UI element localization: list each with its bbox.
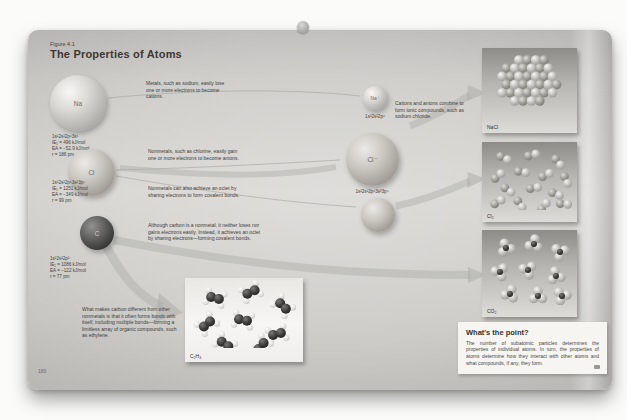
chlorine-covalent-sphere <box>361 198 395 232</box>
c2h4-photo-panel: C₂H₄ <box>185 278 303 362</box>
note-nonmetals-share: Nonmetals can also achieve an octet by s… <box>148 185 240 198</box>
sodium-symbol: Na <box>74 100 82 107</box>
co2-molecules-illustration <box>482 230 577 305</box>
whats-the-point-title: What's the point? <box>466 328 599 337</box>
page-number-left: 180 <box>38 368 46 374</box>
sodium-atom-sphere: Na <box>50 75 106 131</box>
note-carbon: Although carbon is a nonmetal, it neithe… <box>148 222 264 242</box>
cl2-label: Cl₂ <box>487 213 494 219</box>
note-carbon-self: What makes carbon different from other n… <box>82 306 182 339</box>
cl2-photo-panel: Cl₂ <box>482 142 577 222</box>
chloride-ion-symbol: Cl⁻ <box>367 156 377 164</box>
sodium-ion-config: 1s²2s²2p⁶ <box>345 114 405 119</box>
nacl-crystal-illustration <box>482 48 577 120</box>
note-metals: Metals, such as sodium, easily lose one … <box>146 80 234 100</box>
carbon-radius: r = 77 pm <box>50 274 86 280</box>
textbook-spread-screenshot: Figure 4.1 The Properties of Atoms Na 1s… <box>0 0 627 420</box>
binder-hole <box>297 21 309 33</box>
c2h4-label: C₂H₄ <box>190 353 201 359</box>
co2-photo-panel: CO₂ <box>482 230 577 317</box>
cl2-molecules-illustration <box>482 142 577 210</box>
co2-label: CO₂ <box>487 308 496 314</box>
book-spread: Figure 4.1 The Properties of Atoms Na 1s… <box>28 30 612 390</box>
figure-title: The Properties of Atoms <box>50 48 182 60</box>
carbon-atom-sphere: C <box>80 216 114 250</box>
carbon-data: 1s²2s²2p² IE₁ = 1086 kJ/mol EA = −122 kJ… <box>50 256 86 280</box>
chloride-ion-sphere: Cl⁻ <box>346 133 399 186</box>
carbon-symbol: C <box>95 230 100 237</box>
figure-number: Figure 4.1 <box>50 41 75 47</box>
c2h4-molecules-illustration <box>185 278 303 348</box>
chlorine-data: 1s²2s²2p⁶3s²3p⁵ IE₁ = 1251 kJ/mol EA = −… <box>52 180 88 204</box>
whats-the-point-body: The number of subatomic particles determ… <box>466 340 599 367</box>
sodium-ion-symbol: Na⁺ <box>370 96 379 101</box>
nacl-photo-panel: NaCl <box>482 48 577 133</box>
note-cations: Cations and anions combine to form ionic… <box>395 100 467 120</box>
chlorine-radius: r = 99 pm <box>52 198 88 204</box>
note-nonmetals-gain: Nonmetals, such as chlorine, easily gain… <box>148 148 240 161</box>
chloride-ion-config: 1s²2s²2p⁶3s²3p⁶ <box>342 189 402 194</box>
whats-the-point-box: What's the point? The number of subatomi… <box>458 322 607 374</box>
chlorine-symbol: Cl <box>88 169 94 176</box>
nacl-label: NaCl <box>487 124 498 130</box>
practice-icon <box>594 365 600 369</box>
sodium-ion-sphere: Na⁺ <box>363 86 387 110</box>
